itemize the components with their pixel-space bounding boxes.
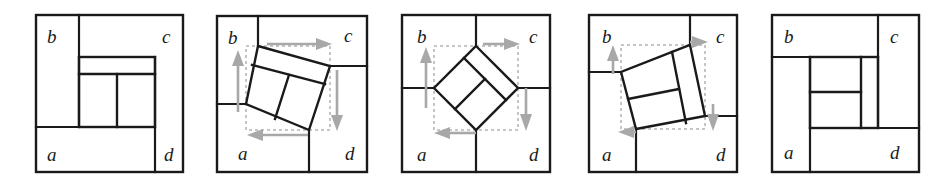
arrow-up-icon: [607, 45, 619, 74]
panel-4-labels: b c a d: [602, 26, 726, 165]
panel-5-label-a: a: [784, 142, 794, 163]
panel-5-label-c: c: [890, 26, 899, 47]
panel-1-label-c: c: [162, 26, 171, 47]
panel-1-label-a: a: [47, 144, 57, 165]
panel-4-label-c: c: [716, 26, 725, 47]
arrow-left-icon: [434, 127, 476, 139]
panel-3: b c a d: [392, 0, 567, 182]
panel-3-label-d: d: [529, 144, 539, 165]
panel-2-label-d: d: [345, 143, 355, 164]
panel-3-label-c: c: [529, 26, 538, 47]
panel-3-label-a: a: [417, 144, 427, 165]
arrow-up-icon: [232, 50, 244, 112]
panel-3-label-b: b: [417, 26, 427, 47]
arrow-up-icon: [420, 47, 432, 108]
panel-4-label-a: a: [602, 144, 612, 165]
arrow-down-icon: [520, 88, 532, 131]
panel-2-rotated-square: [246, 46, 330, 130]
arrow-left-icon: [247, 129, 308, 141]
panel-5-label-b: b: [784, 26, 794, 47]
panel-2-label-b: b: [228, 27, 238, 48]
panel-2: b c a d: [205, 0, 380, 182]
panel-4: b c a d: [578, 0, 753, 182]
panel-1-inner-square: [79, 57, 155, 127]
panel-3-rotated-square: [434, 46, 518, 130]
panel-5-labels: b c a d: [784, 26, 900, 163]
panel-1-label-d: d: [164, 144, 174, 165]
figure-strip: b c a d: [0, 0, 951, 182]
panel-1: b c a d: [22, 0, 197, 182]
panel-5: b c a d: [762, 0, 942, 182]
arrow-down-icon: [331, 70, 343, 131]
panel-1-outer-square: [36, 15, 183, 172]
arrow-down-icon: [707, 104, 719, 131]
arrow-right-icon: [267, 38, 332, 50]
arrow-right-icon: [483, 38, 520, 50]
panel-2-label-c: c: [344, 25, 353, 46]
panel-4-rotated-square: [621, 45, 705, 129]
panel-4-label-b: b: [602, 26, 612, 47]
panel-5-label-d: d: [890, 142, 900, 163]
panel-2-label-a: a: [238, 143, 248, 164]
panel-4-label-d: d: [716, 144, 726, 165]
panel-2-guide-square: [246, 46, 330, 130]
panel-1-label-b: b: [47, 26, 57, 47]
panel-5-inner-square: [810, 57, 878, 128]
